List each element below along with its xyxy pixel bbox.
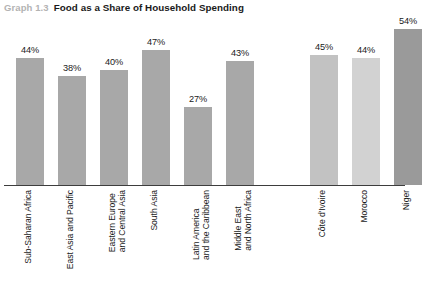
bar-value-label: 47%: [136, 37, 176, 47]
bar: [100, 70, 128, 185]
bar-category-label: Middle East and North Africa: [234, 190, 253, 251]
bar-value-label: 40%: [94, 57, 134, 67]
bar: [352, 58, 380, 185]
bar-value-label: 54%: [388, 16, 426, 26]
bar: [58, 76, 86, 185]
bar: [16, 58, 44, 185]
bar-value-label: 44%: [10, 45, 50, 55]
bar-category-label: Latin America and the Caribbean: [192, 190, 211, 260]
bar-category-label: South Asia: [150, 190, 160, 231]
bar-value-label: 38%: [52, 63, 92, 73]
bar-category-label: Sub-Saharan Africa: [24, 190, 34, 264]
bar: [226, 61, 254, 185]
bar-category-label: Côte d'Ivoire: [318, 190, 328, 237]
bar-category-label: Morocco: [360, 190, 370, 223]
bar-value-label: 43%: [220, 48, 260, 58]
bar-category-label: East Asia and Pacific: [66, 190, 76, 269]
bar-category-label: Eastern Europe and Central Asia: [108, 190, 127, 252]
bar: [394, 29, 422, 185]
bar: [142, 50, 170, 185]
bar-value-label: 44%: [346, 45, 386, 55]
bar: [184, 107, 212, 185]
bar-value-label: 27%: [178, 94, 218, 104]
x-axis-line: [4, 185, 405, 186]
bar: [310, 55, 338, 185]
bar-value-label: 45%: [304, 42, 344, 52]
bar-category-label: Niger: [402, 190, 412, 210]
